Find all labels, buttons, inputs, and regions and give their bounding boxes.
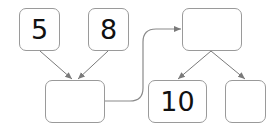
sum-box[interactable] <box>45 80 105 123</box>
arrow-top-right-to-10 <box>178 51 211 79</box>
box-value: 8 <box>100 16 117 43</box>
box-value: 5 <box>31 16 48 43</box>
arrow-5-to-sum <box>40 51 72 79</box>
top-right-box[interactable] <box>182 8 242 51</box>
box-value: 10 <box>160 88 194 115</box>
arrow-top-right-to-blank <box>211 51 245 79</box>
number-box-10: 10 <box>148 80 207 123</box>
blank-box[interactable] <box>225 80 266 123</box>
number-box-8: 8 <box>88 8 129 51</box>
arrow-8-to-sum <box>78 51 108 79</box>
number-box-5: 5 <box>19 8 60 51</box>
